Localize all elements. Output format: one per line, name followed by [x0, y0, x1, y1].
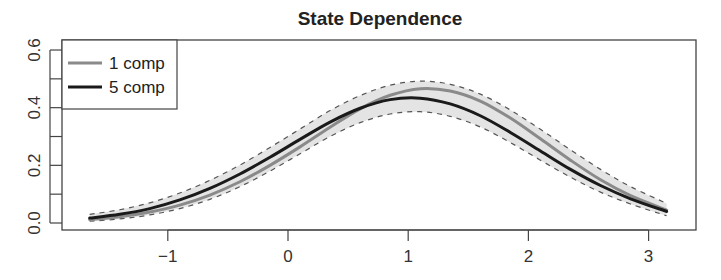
- legend-label-1-comp: 1 comp: [109, 54, 165, 73]
- x-tick-label: 2: [524, 247, 533, 266]
- chart-title: State Dependence: [298, 8, 463, 29]
- y-tick-label: 0.4: [25, 96, 44, 120]
- legend-box: [62, 40, 177, 109]
- x-axis: −10123: [158, 230, 653, 266]
- legend-label-5-comp: 5 comp: [109, 78, 165, 97]
- y-tick-label: 0.2: [25, 154, 44, 178]
- x-tick-label: 3: [644, 247, 653, 266]
- x-tick-label: 1: [403, 247, 412, 266]
- x-tick-label: −1: [158, 247, 177, 266]
- x-tick-label: 0: [283, 247, 292, 266]
- legend: 1 comp 5 comp: [62, 40, 177, 109]
- y-tick-label: 0.0: [25, 211, 44, 235]
- state-dependence-chart: State Dependence 0.00.20.40.6 −10123 1 c…: [0, 0, 721, 280]
- y-tick-label: 0.6: [25, 38, 44, 62]
- y-axis: 0.00.20.40.6: [25, 38, 62, 235]
